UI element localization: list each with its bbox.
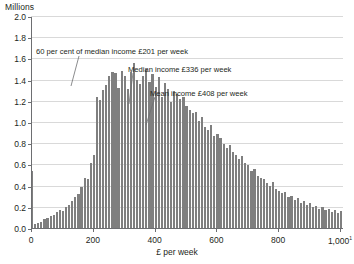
histogram-bar	[232, 152, 234, 229]
histogram-bar	[309, 203, 311, 230]
y-tick-label: 0.6	[2, 160, 26, 170]
x-tick-label: 400	[135, 235, 175, 245]
histogram-bar	[59, 210, 61, 229]
histogram-bar	[189, 110, 191, 229]
x-axis-title: £ per week	[0, 247, 354, 257]
histogram-bar	[334, 210, 336, 229]
histogram-bar	[306, 205, 308, 229]
histogram-bar	[297, 198, 299, 229]
y-tick-mark	[28, 144, 31, 145]
histogram-bar	[287, 197, 289, 229]
histogram-bar	[223, 144, 225, 229]
histogram-bar	[294, 200, 296, 229]
histogram-bar	[290, 196, 292, 229]
x-tick-label: 200	[73, 235, 113, 245]
y-tick-mark	[28, 165, 31, 166]
histogram-bar	[284, 192, 286, 229]
histogram-bar	[84, 178, 86, 229]
histogram-bar	[250, 171, 252, 229]
histogram-bar	[278, 191, 280, 229]
histogram-bar	[216, 134, 218, 229]
histogram-bar	[99, 100, 101, 229]
histogram-bar	[133, 63, 135, 229]
x-tick-mark	[340, 229, 341, 232]
histogram-bar	[260, 178, 262, 229]
histogram-bar	[207, 130, 209, 229]
histogram-bar	[185, 106, 187, 229]
histogram-bar	[266, 183, 268, 229]
histogram-bar	[179, 99, 181, 229]
histogram-bar	[145, 69, 147, 229]
histogram-bar	[340, 211, 342, 229]
histogram-bar	[142, 76, 144, 229]
histogram-bar	[53, 215, 55, 229]
x-tick-label: 800	[258, 235, 298, 245]
histogram-bar	[321, 207, 323, 229]
y-tick-label: 1.6	[2, 54, 26, 64]
histogram-bar	[312, 207, 314, 229]
histogram-bar	[315, 206, 317, 229]
histogram-bar	[176, 94, 178, 229]
histogram-bar	[226, 148, 228, 229]
histogram-bar	[90, 163, 92, 229]
y-tick-mark	[28, 208, 31, 209]
histogram-bar	[219, 138, 221, 229]
x-tick-mark	[278, 229, 279, 232]
histogram-bar	[93, 155, 95, 229]
histogram-bar	[87, 179, 89, 229]
histogram-bar	[111, 72, 113, 229]
histogram-bar	[195, 112, 197, 229]
histogram-bar	[182, 97, 184, 230]
histogram-bar	[201, 117, 203, 229]
y-tick-mark	[28, 38, 31, 39]
income-distribution-chart: Millions 0.00.20.40.60.81.01.21.41.61.82…	[0, 0, 354, 264]
histogram-bar	[324, 210, 326, 229]
y-tick-mark	[28, 187, 31, 188]
x-tick-label: 0	[11, 235, 51, 245]
histogram-bar	[337, 213, 339, 229]
histogram-bar	[328, 209, 330, 229]
histogram-bar	[204, 127, 206, 229]
histogram-bar	[102, 90, 104, 229]
histogram-bar	[275, 189, 277, 229]
annotation-label-low-income-threshold: 60 per cent of median income £201 per we…	[36, 48, 188, 56]
histogram-bar	[65, 207, 67, 229]
y-tick-label: 0.8	[2, 139, 26, 149]
annotation-label-mean-income: Mean income £408 per week	[150, 90, 248, 98]
y-tick-mark	[28, 17, 31, 18]
histogram-bar	[130, 72, 132, 229]
histogram-bar	[300, 203, 302, 230]
y-tick-mark	[28, 59, 31, 60]
y-tick-label: 0.2	[2, 203, 26, 213]
histogram-bar	[318, 209, 320, 229]
histogram-bar	[121, 71, 123, 229]
histogram-bar	[96, 97, 98, 230]
y-axis-line	[31, 17, 32, 229]
histogram-bar	[235, 155, 237, 229]
x-tick-mark	[216, 229, 217, 232]
y-tick-label: 1.0	[2, 118, 26, 128]
y-tick-mark	[28, 229, 31, 230]
histogram-bar	[77, 194, 79, 229]
x-tick-mark	[155, 229, 156, 232]
histogram-bar	[136, 80, 138, 229]
histogram-bar	[167, 89, 169, 229]
histogram-bar	[148, 82, 150, 229]
x-tick-label: 1,0001	[320, 235, 354, 246]
histogram-bar	[269, 186, 271, 229]
histogram-bar	[272, 182, 274, 229]
histogram-bar	[117, 88, 119, 229]
histogram-bar	[164, 83, 166, 229]
histogram-bar	[331, 212, 333, 229]
x-tick-footnote-marker: 1	[349, 235, 352, 241]
histogram-bar	[238, 159, 240, 229]
histogram-bar	[173, 91, 175, 229]
histogram-bar	[127, 89, 129, 229]
y-tick-label: 1.2	[2, 97, 26, 107]
histogram-bar	[192, 113, 194, 229]
histogram-bar	[303, 201, 305, 229]
y-tick-label: 1.4	[2, 76, 26, 86]
histogram-bar	[74, 197, 76, 229]
histogram-bar	[281, 193, 283, 229]
histogram-bar	[108, 76, 110, 229]
